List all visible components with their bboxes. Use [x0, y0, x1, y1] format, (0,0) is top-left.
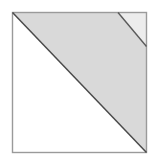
shaded-square-diagram	[0, 0, 158, 161]
figure-canvas	[0, 0, 158, 161]
